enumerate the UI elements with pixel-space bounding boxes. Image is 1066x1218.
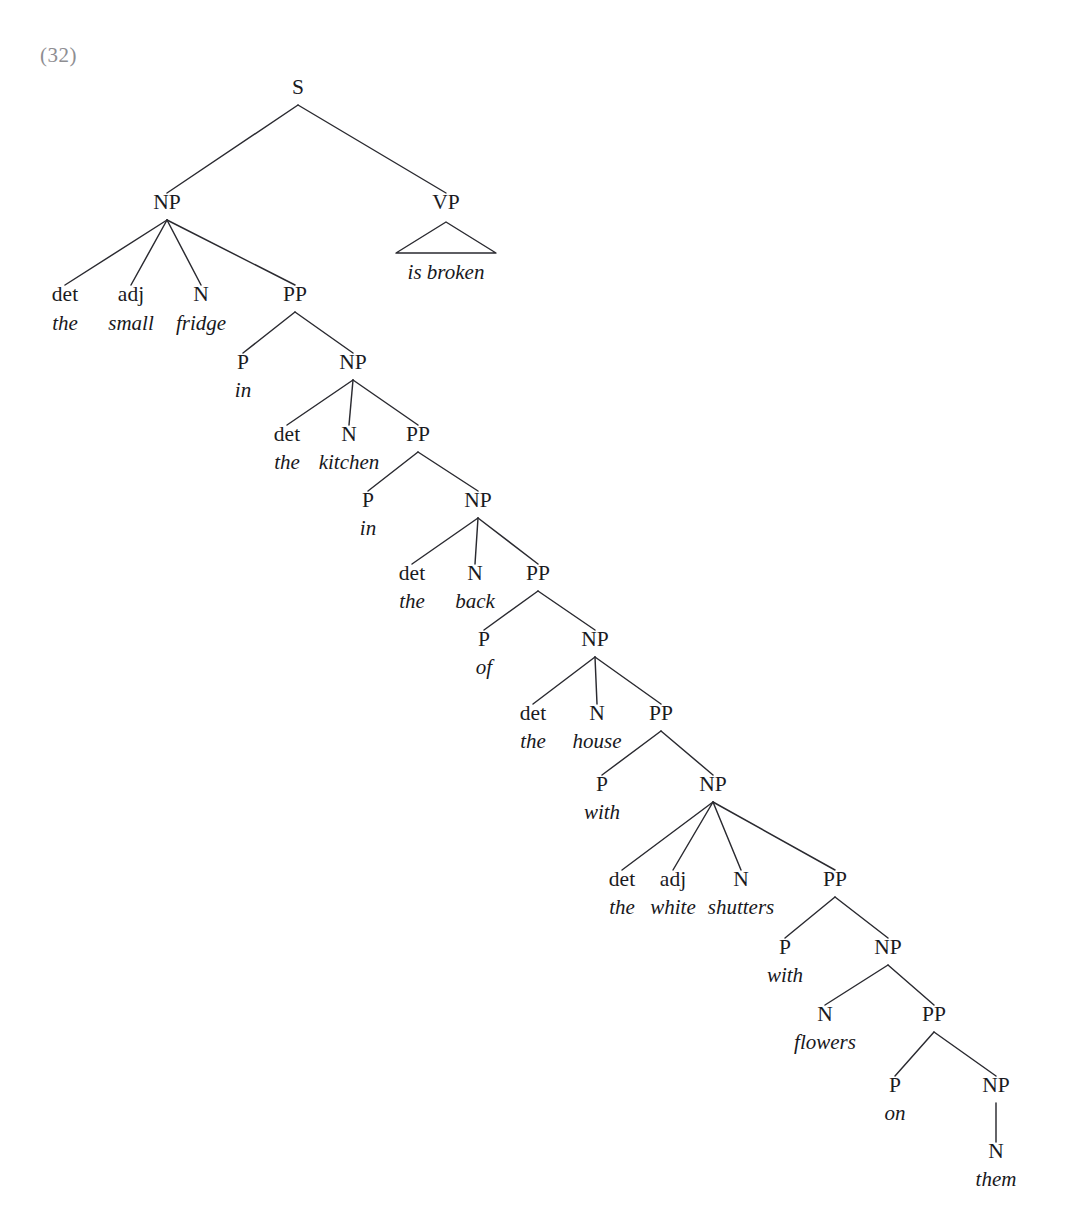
node-pp3: PP	[526, 561, 550, 585]
branch-np5-to-pp5	[713, 802, 835, 870]
node-np2-n: N	[341, 422, 357, 446]
node-np5-n: N	[733, 867, 749, 891]
node-np4: NP	[581, 627, 609, 651]
node-np5-adj: adj	[660, 867, 686, 891]
branch-s-to-np1	[167, 105, 298, 193]
vp-constituent-triangle	[396, 222, 496, 253]
node-pp6-p: P	[889, 1073, 901, 1097]
branch-np2-to-np2_det	[287, 380, 353, 425]
node-np1-n: N	[193, 282, 209, 306]
branch-np3-to-pp3	[478, 518, 538, 564]
branch-np5-to-np5_n	[713, 802, 741, 870]
terminal-np5-n-t: shutters	[708, 895, 775, 919]
node-np3-n: N	[467, 561, 483, 585]
terminal-np4-n-t: house	[573, 729, 622, 753]
terminal-np3-n-t: back	[455, 589, 495, 613]
node-np1-det: det	[52, 282, 78, 306]
node-pp5-p: P	[779, 935, 791, 959]
branch-s-to-vp	[298, 105, 446, 193]
branch-np6-to-pp6	[888, 965, 934, 1005]
node-pp1: PP	[283, 282, 307, 306]
branch-np3-to-np3_det	[412, 518, 478, 564]
terminal-pp6-p-t: on	[885, 1101, 906, 1125]
branch-np1-to-np1_n	[167, 220, 201, 285]
branch-pp4-to-np5	[661, 731, 713, 775]
node-np3-det: det	[399, 561, 425, 585]
branch-lines	[65, 105, 996, 1142]
terminal-np1-det-t: the	[52, 311, 78, 335]
node-s: S	[292, 75, 304, 99]
syntax-tree-figure: SNPVPis brokendettheadjsmallNfridgePPPin…	[0, 0, 1066, 1218]
vp-triangle	[396, 222, 496, 253]
branch-np4-to-pp4	[595, 657, 661, 704]
branch-pp2-to-np3	[418, 452, 478, 491]
terminal-np5-adj-t: white	[650, 895, 696, 919]
branch-np4-to-np4_det	[533, 657, 595, 704]
branch-np4-to-np4_n	[595, 657, 597, 704]
example-number: (32)	[40, 43, 77, 67]
branch-pp1-to-np2	[295, 312, 353, 353]
branch-np5-to-np5_adj	[673, 802, 713, 870]
node-np4-n: N	[589, 701, 605, 725]
branch-pp5-to-pp5_p	[785, 897, 835, 938]
branch-np1-to-np1_adj	[131, 220, 167, 285]
node-pp5: PP	[823, 867, 847, 891]
node-pp3-p: P	[478, 627, 490, 651]
terminal-pp5-p-t: with	[767, 963, 803, 987]
terminal-pp3-p-t: of	[476, 655, 496, 679]
node-np7: NP	[982, 1073, 1010, 1097]
terminal-np4-det-t: the	[520, 729, 546, 753]
node-np4-det: det	[520, 701, 546, 725]
branch-np2-to-pp2	[353, 380, 418, 425]
branch-np2-to-np2_n	[349, 380, 353, 425]
terminal-np7-n-t: them	[976, 1167, 1017, 1191]
terminal-np6-n-t: flowers	[794, 1030, 856, 1054]
branch-np6-to-np6_n	[825, 965, 888, 1005]
branch-pp6-to-np7	[934, 1032, 996, 1076]
terminal-vp-terminal: is broken	[408, 260, 485, 284]
node-np3: NP	[464, 488, 492, 512]
node-pp4-p: P	[596, 772, 608, 796]
node-np5: NP	[699, 772, 727, 796]
node-vp: VP	[432, 190, 460, 214]
node-pp4: PP	[649, 701, 673, 725]
terminal-pp4-p-t: with	[584, 800, 620, 824]
node-pp2-p: P	[362, 488, 374, 512]
branch-np1-to-np1_det	[65, 220, 167, 285]
terminal-pp2-p-t: in	[360, 516, 376, 540]
terminal-pp1-p-t: in	[235, 378, 251, 402]
node-np5-det: det	[609, 867, 635, 891]
node-np1: NP	[153, 190, 181, 214]
node-np6-n: N	[817, 1002, 833, 1026]
node-np2-det: det	[274, 422, 300, 446]
branch-pp1-to-pp1_p	[243, 312, 295, 353]
node-labels: SNPVPis brokendettheadjsmallNfridgePPPin…	[52, 75, 1017, 1191]
terminal-np1-adj-t: small	[108, 311, 154, 335]
terminal-np3-det-t: the	[399, 589, 425, 613]
node-np6: NP	[874, 935, 902, 959]
node-np7-n: N	[988, 1139, 1004, 1163]
branch-np1-to-pp1	[167, 220, 295, 285]
branch-pp5-to-np6	[835, 897, 888, 938]
node-pp6: PP	[922, 1002, 946, 1026]
terminal-np1-n-t: fridge	[176, 311, 226, 335]
branch-np3-to-np3_n	[475, 518, 478, 564]
node-pp2: PP	[406, 422, 430, 446]
branch-pp3-to-np4	[538, 591, 595, 630]
branch-pp6-to-pp6_p	[895, 1032, 934, 1076]
branch-np5-to-np5_det	[622, 802, 713, 870]
node-np1-adj: adj	[118, 282, 144, 306]
node-np2: NP	[339, 350, 367, 374]
node-pp1-p: P	[237, 350, 249, 374]
terminal-np5-det-t: the	[609, 895, 635, 919]
terminal-np2-n-t: kitchen	[319, 450, 380, 474]
terminal-np2-det-t: the	[274, 450, 300, 474]
